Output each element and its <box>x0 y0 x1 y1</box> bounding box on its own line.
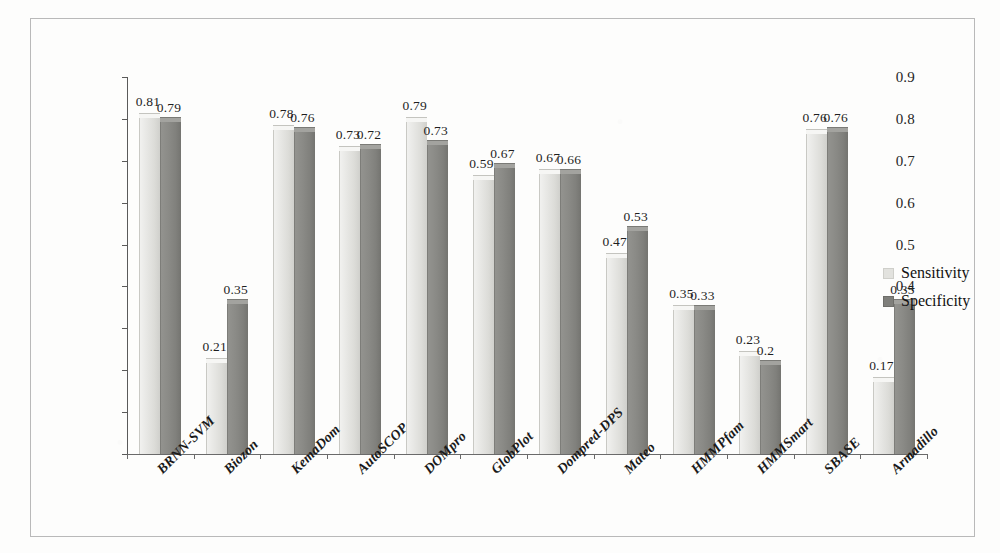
bar-sensitivity <box>539 169 560 454</box>
bar-front-face <box>406 122 427 454</box>
bar-sensitivity <box>339 146 360 454</box>
bar-front-face <box>294 132 315 454</box>
bar-front-face <box>894 304 915 454</box>
bar-value-label: 0.2 <box>757 343 774 359</box>
x-axis-tick-mark <box>594 454 595 459</box>
bar-value-label: 0.79 <box>403 98 427 114</box>
bar-specificity <box>160 117 181 454</box>
legend-label: Specificity <box>901 292 970 310</box>
bar-front-face <box>539 174 560 454</box>
x-axis-tick-mark <box>260 454 261 459</box>
x-axis-tick-mark <box>460 454 461 459</box>
bar-front-face <box>273 130 294 454</box>
bar-value-label: 0.33 <box>690 288 714 304</box>
bar-sensitivity <box>206 358 227 454</box>
bar-sensitivity <box>739 351 760 454</box>
y-axis-tick-mark <box>122 77 127 78</box>
bar-sensitivity <box>673 305 694 454</box>
chart-legend: SensitivitySpecificity <box>883 259 1000 315</box>
x-axis-tick-mark <box>660 454 661 459</box>
y-axis-tick-mark <box>122 119 127 120</box>
y-axis-tick-label: 0.7 <box>896 152 915 169</box>
x-axis-tick-mark <box>327 454 328 459</box>
bar-value-label: 0.21 <box>203 339 227 355</box>
y-axis-tick-mark <box>122 370 127 371</box>
bar-specificity <box>360 144 381 454</box>
bar-specificity <box>427 140 448 454</box>
bar-sensitivity <box>873 377 894 454</box>
plot-area: 0.90.80.70.60.50.40.30.20.10 0.810.790.2… <box>127 77 927 454</box>
bar-sensitivity <box>273 125 294 454</box>
bar-front-face <box>694 310 715 454</box>
bar-value-label: 0.73 <box>424 123 448 139</box>
bar-front-face <box>206 363 227 454</box>
bar-value-label: 0.79 <box>157 100 181 116</box>
bar-front-face <box>473 180 494 454</box>
bar-front-face <box>160 122 181 454</box>
bar-front-face <box>739 356 760 454</box>
bar-value-label: 0.76 <box>290 110 314 126</box>
y-axis-tick-mark <box>122 245 127 246</box>
bar-sensitivity <box>806 129 827 454</box>
y-axis-tick-mark <box>122 203 127 204</box>
bar-value-label: 0.67 <box>490 146 514 162</box>
x-axis-tick-mark <box>194 454 195 459</box>
bar-value-label: 0.76 <box>824 110 848 126</box>
legend-label: Sensitivity <box>901 264 969 282</box>
bar-front-face <box>560 174 581 454</box>
x-axis-tick-mark <box>394 454 395 459</box>
legend-item-specificity[interactable]: Specificity <box>883 287 1000 315</box>
bar-specificity <box>494 163 515 454</box>
bar-value-label: 0.17 <box>869 358 893 374</box>
bar-front-face <box>494 168 515 454</box>
x-axis-tick-mark <box>727 454 728 459</box>
bar-front-face <box>673 310 694 454</box>
bar-front-face <box>806 134 827 454</box>
bar-value-label: 0.35 <box>224 282 248 298</box>
legend-swatch-icon <box>883 268 894 279</box>
bar-front-face <box>873 382 894 454</box>
bar-front-face <box>339 151 360 454</box>
bar-front-face <box>827 132 848 454</box>
bar-specificity <box>827 127 848 454</box>
bar-chart: 0.90.80.70.60.50.40.30.20.10 0.810.790.2… <box>101 59 956 529</box>
bar-value-label: 0.66 <box>557 152 581 168</box>
bar-sensitivity <box>406 117 427 454</box>
y-axis-tick-mark <box>122 161 127 162</box>
y-axis-line <box>127 77 128 454</box>
bar-front-face <box>427 145 448 454</box>
bar-specificity <box>894 299 915 454</box>
bar-specificity <box>227 299 248 454</box>
figure-frame: 0.90.80.70.60.50.40.30.20.10 0.810.790.2… <box>30 18 975 537</box>
y-axis-tick-label: 0.9 <box>896 69 915 86</box>
bar-sensitivity <box>139 113 160 454</box>
bar-front-face <box>139 118 160 454</box>
x-axis-tick-mark <box>127 454 128 459</box>
y-axis-tick-mark <box>122 328 127 329</box>
page-background: 0.90.80.70.60.50.40.30.20.10 0.810.790.2… <box>0 0 1000 553</box>
legend-swatch-icon <box>883 296 894 307</box>
y-axis-tick-label: 0.5 <box>896 236 915 253</box>
y-axis-tick-mark <box>122 286 127 287</box>
legend-item-sensitivity[interactable]: Sensitivity <box>883 259 1000 287</box>
x-axis-tick-mark <box>927 454 928 459</box>
bar-value-label: 0.53 <box>624 209 648 225</box>
bar-sensitivity <box>473 175 494 454</box>
x-axis-tick-mark <box>860 454 861 459</box>
bar-specificity <box>694 305 715 454</box>
bar-front-face <box>227 304 248 454</box>
bar-front-face <box>627 231 648 454</box>
y-axis-tick-label: 0.8 <box>896 110 915 127</box>
bar-specificity <box>627 226 648 454</box>
bar-value-label: 0.47 <box>603 234 627 250</box>
x-axis-tick-mark <box>794 454 795 459</box>
x-axis-tick-mark <box>527 454 528 459</box>
y-axis-tick-label: 0.6 <box>896 194 915 211</box>
y-axis-tick-mark <box>122 412 127 413</box>
bar-front-face <box>360 149 381 454</box>
bar-specificity <box>560 169 581 454</box>
bar-value-label: 0.72 <box>357 127 381 143</box>
bar-specificity <box>294 127 315 454</box>
